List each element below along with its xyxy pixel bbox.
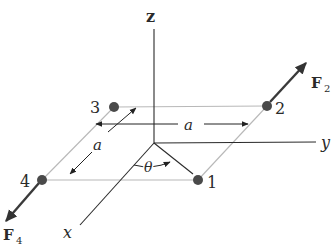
edge-4-3 [42,107,114,180]
force-label-f4: F 4 [3,226,22,246]
dimension-label-a-depth: a [93,136,102,154]
axis-label-y: y [320,133,331,152]
force-arrow-f2 [270,63,306,102]
dimension-label-a-horizontal: a [184,116,193,134]
point-label-4: 4 [20,172,30,191]
axis-label-x: x [63,223,72,242]
edge-3-2 [114,106,267,107]
force-symbol-f4: F [3,226,14,244]
point-4 [37,175,47,185]
point-1 [193,175,203,185]
line-to-point-1 [154,143,193,174]
point-3 [109,102,119,112]
point-label-1: 1 [207,173,217,192]
force-label-f2: F 2 [311,74,330,94]
force-symbol-f2: F [311,74,322,92]
force-subscript-f2: 2 [324,83,330,94]
point-label-2: 2 [275,99,285,118]
force-diagram: a a θ 3 2 1 4 z y x F 2 F 4 [0,0,333,247]
dim-arrow-down [70,152,92,174]
force-subscript-f4: 4 [16,235,22,246]
axis-label-z: z [146,7,155,26]
point-2 [262,101,272,111]
point-label-3: 3 [90,98,100,117]
y-axis [154,142,316,143]
x-axis [80,143,154,225]
angle-label-theta: θ [144,159,153,175]
axes [80,29,316,225]
